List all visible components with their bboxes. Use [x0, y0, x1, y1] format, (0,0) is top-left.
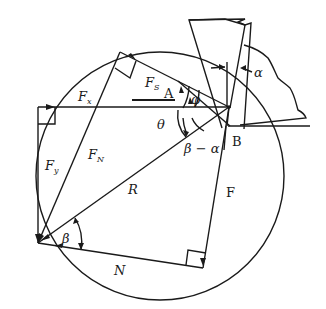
arrowhead-alpha-right	[240, 65, 246, 71]
label-alpha: α	[254, 65, 263, 80]
label-r: R	[127, 182, 138, 197]
theta-arc	[183, 118, 186, 132]
label-fy: Fy	[44, 158, 59, 175]
b-marker-line	[224, 126, 226, 150]
arrowhead-f	[200, 258, 206, 266]
tool	[189, 19, 251, 129]
label-beta: β	[61, 231, 70, 246]
tool-tip-point	[227, 105, 231, 109]
arrowhead-phi-top	[179, 86, 184, 93]
label-b: B	[232, 134, 242, 149]
arrowhead-fx	[46, 104, 55, 110]
label-fx: Fx	[77, 89, 92, 106]
label-theta: θ	[157, 117, 165, 132]
force-circle-diagram: Fx FS Fy FN R F N A B φ θ β β − α α	[0, 0, 326, 309]
label-f: F	[226, 185, 235, 200]
label-fs: FS	[144, 75, 160, 92]
right-angle-fn-fs	[115, 61, 136, 78]
shear-force-Fs	[120, 52, 229, 107]
label-n: N	[113, 263, 126, 278]
label-fn: FN	[87, 147, 105, 164]
label-phi: φ	[191, 92, 201, 107]
label-a: A	[163, 86, 174, 101]
label-beta-minus-alpha: β − α	[183, 141, 220, 156]
workpiece-chip	[240, 45, 306, 125]
